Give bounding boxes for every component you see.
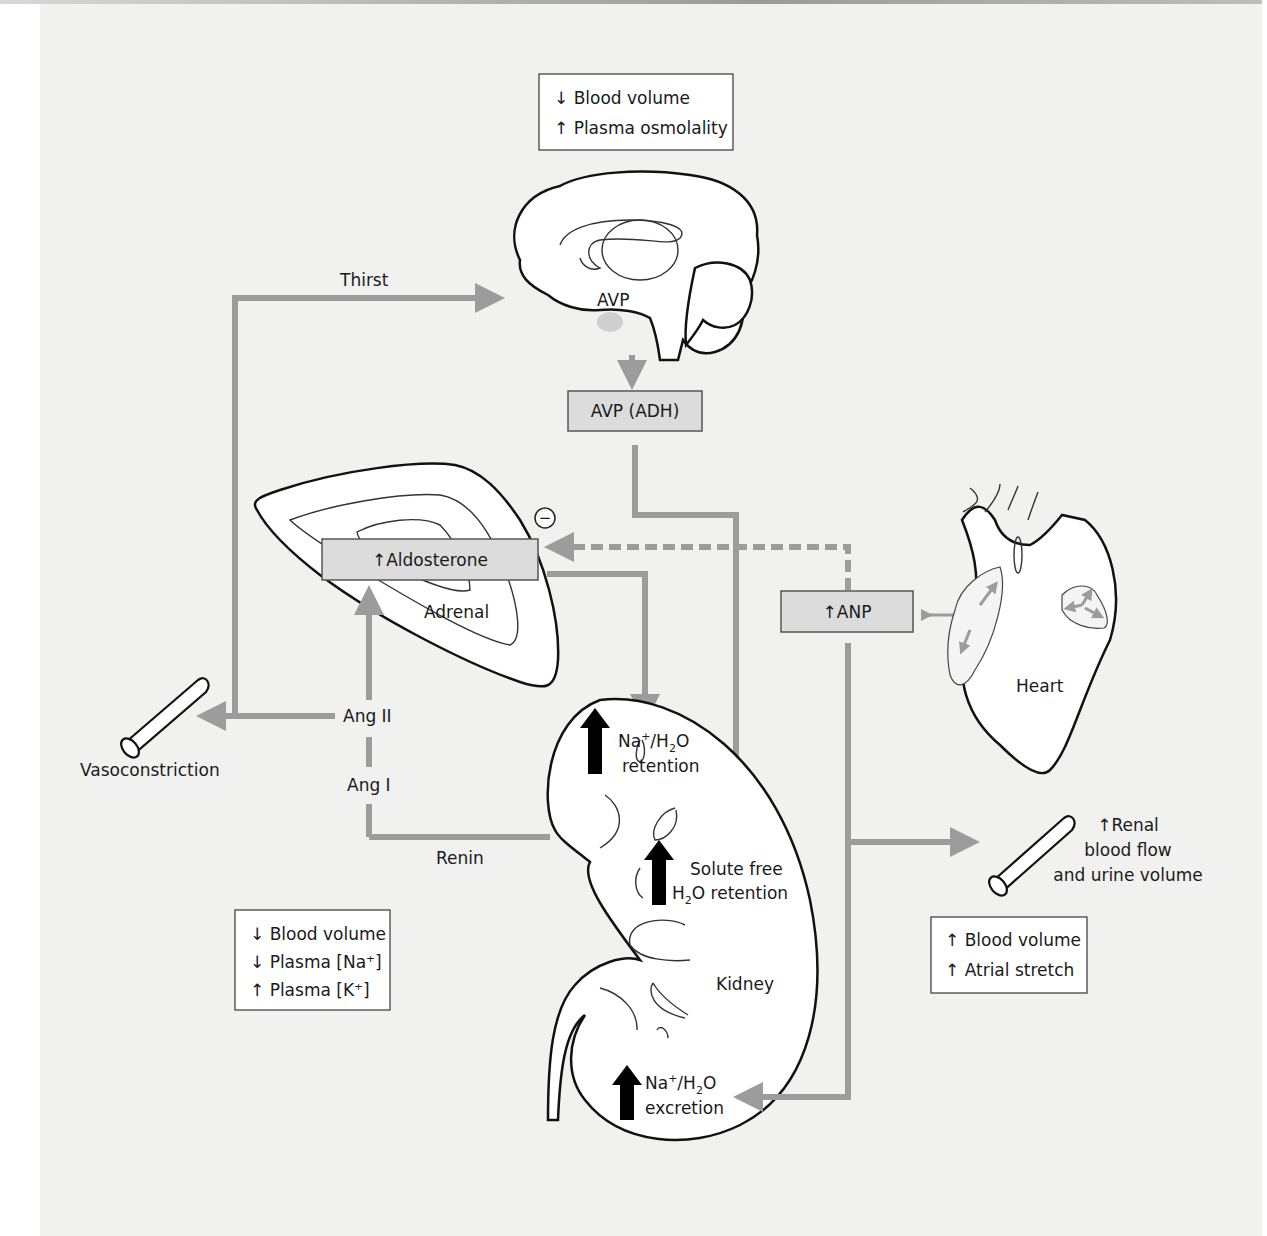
arrow-aldosterone-to-kidney — [547, 574, 645, 712]
stimulus-box-heart: ↑ Blood volume ↑ Atrial stretch — [931, 917, 1087, 993]
stimulus-line: ↓ Blood volume — [250, 924, 386, 944]
anp-label: ↑ANP — [823, 602, 872, 622]
heart-illustration: Heart — [948, 484, 1116, 773]
heart-label: Heart — [1016, 676, 1064, 696]
na-retention-line2: retention — [622, 756, 700, 776]
ang1-label: Ang I — [347, 775, 391, 795]
vessel-renal-icon — [986, 816, 1075, 899]
vasoconstriction-label: Vasoconstriction — [80, 760, 220, 780]
vessel-vasoconstriction-icon — [118, 678, 209, 761]
stimulus-line: ↑ Plasma osmolality — [554, 118, 728, 138]
arrow-anp-inhibits-aldosterone — [556, 547, 848, 590]
stimulus-line: ↑ Blood volume — [945, 930, 1081, 950]
renal-flow-label: ↑Renal blood flow and urine volume — [1053, 815, 1203, 885]
ang2-label: Ang II — [343, 706, 392, 726]
renal-flow-line: ↑Renal — [1097, 815, 1159, 835]
stimulus-line: ↓ Blood volume — [554, 88, 690, 108]
brain-avp-label: AVP — [597, 290, 629, 310]
fluid-balance-diagram: ↓ Blood volume ↑ Plasma osmolality AVP A… — [0, 0, 1267, 1236]
hormone-box-anp: ↑ANP — [781, 591, 913, 632]
stimulus-line: ↑ Plasma [K⁺] — [250, 980, 370, 1000]
brain-illustration: AVP — [514, 172, 758, 360]
stimulus-box-brain: ↓ Blood volume ↑ Plasma osmolality — [539, 74, 733, 150]
renal-flow-line: blood flow — [1084, 840, 1172, 860]
renal-flow-line: and urine volume — [1053, 865, 1203, 885]
inhibition-icon: − — [535, 508, 555, 528]
adrenal-label: Adrenal — [424, 602, 489, 622]
inhibition-symbol: − — [539, 509, 552, 527]
avp-label: AVP (ADH) — [591, 401, 680, 421]
stimulus-line: ↓ Plasma [Na⁺] — [250, 952, 382, 972]
aldosterone-label: ↑Aldosterone — [372, 550, 488, 570]
renin-label: Renin — [436, 848, 484, 868]
na-excretion-line2: excretion — [645, 1098, 724, 1118]
water-retention-line1: Solute free — [690, 859, 783, 879]
thirst-label: Thirst — [339, 270, 389, 290]
kidney-label: Kidney — [716, 974, 774, 994]
effect-na-excretion: Na+/H2O excretion — [612, 1065, 724, 1120]
stimulus-box-renin: ↓ Blood volume ↓ Plasma [Na⁺] ↑ Plasma [… — [235, 910, 390, 1010]
hormone-box-avp: AVP (ADH) — [568, 391, 702, 431]
hormone-box-aldosterone: ↑Aldosterone — [322, 539, 538, 580]
stimulus-line: ↑ Atrial stretch — [945, 960, 1074, 980]
